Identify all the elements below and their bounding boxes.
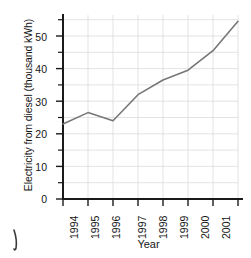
data-series-line [63,21,238,124]
x-axis-ticks [63,199,238,206]
vertical-gridlines [88,15,238,199]
plot-area [0,0,251,258]
horizontal-gridlines [63,20,238,183]
pencil-stroke-artifact [10,228,26,252]
line-chart: Electricity from diesel (thousand kWh) 0… [0,0,251,258]
